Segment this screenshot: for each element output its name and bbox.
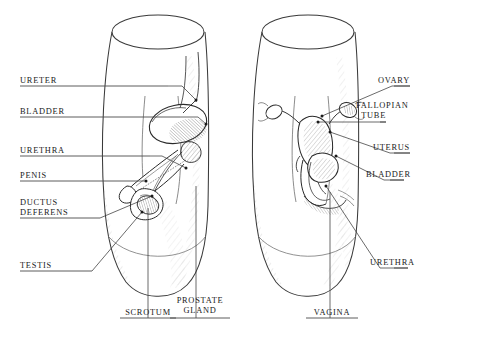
male-prostate [181,142,201,163]
label-urethra_f: URETHRA [370,258,408,268]
label-prostate: PROSTATE GLAND [170,296,230,316]
label-testis: TESTIS [20,261,52,271]
label-bladder_f: BLADDER [366,170,404,180]
leader-dot [151,195,154,198]
label-ovary: OVARY [370,76,410,86]
leader-dot [185,167,188,170]
leader-dot [321,115,324,118]
label-urethra: URETHRA [20,146,65,156]
label-vagina: VAGINA [306,308,358,318]
label-ureter: URETER [20,76,57,86]
leader-dot [317,121,320,124]
leader-dot [145,180,148,183]
label-uterus: UTERUS [370,143,410,153]
leader-dot [325,185,328,188]
label-penis: PENIS [20,171,47,181]
leader-dot [335,155,338,158]
label-ductus: DUCTUS DEFERENS [20,198,68,218]
female-torso-group [250,15,364,296]
leader-dot [195,99,198,102]
leader-dot [329,131,332,134]
anatomy-diagram: URETERBLADDERURETHRAPENISDUCTUS DEFERENS… [0,0,499,338]
label-bladder: BLADDER [20,107,65,117]
label-fallopian: FALLOPIAN TUBE [356,101,386,121]
male-waist-ellipse [112,15,204,49]
leader-dot [141,211,144,214]
female-waist-ellipse [262,15,354,49]
leader-dot [205,123,208,126]
anatomy-figure [0,0,499,338]
label-scrotum: SCROTUM [120,308,176,318]
